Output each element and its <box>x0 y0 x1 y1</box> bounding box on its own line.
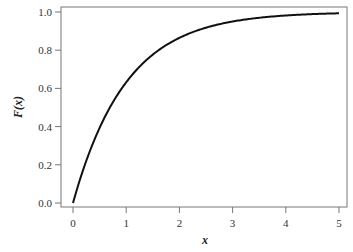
y-axis-label: F(x) <box>11 96 25 119</box>
x-tick-label: 0 <box>70 217 76 229</box>
x-tick-label: 3 <box>230 217 236 229</box>
x-tick-label: 4 <box>283 217 289 229</box>
plot-frame <box>61 7 347 207</box>
y-tick-label: 0.2 <box>38 159 52 171</box>
chart: 0.00.20.40.60.81.0 012345 x F(x) <box>0 0 353 252</box>
y-tick-label: 0.6 <box>38 82 52 94</box>
x-tick-label: 5 <box>336 217 342 229</box>
x-tick-label: 1 <box>123 217 129 229</box>
x-tick-label: 2 <box>177 217 183 229</box>
y-tick-label: 0.8 <box>38 44 52 56</box>
y-tick-label: 1.0 <box>38 6 52 18</box>
x-axis-label: x <box>201 233 208 247</box>
y-tick-label: 0.0 <box>38 197 52 209</box>
y-axis: 0.00.20.40.60.81.0 <box>38 6 61 209</box>
x-axis: 012345 <box>70 207 342 229</box>
data-line <box>73 13 339 203</box>
y-tick-label: 0.4 <box>38 121 52 133</box>
